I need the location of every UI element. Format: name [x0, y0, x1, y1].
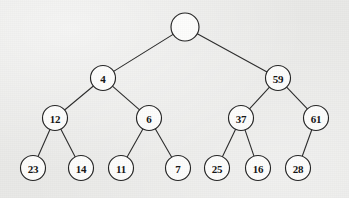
tree-edge-n4-to-n12	[65, 86, 94, 110]
tree-edge-n6-to-n7	[155, 129, 171, 157]
tree-edge-n59-to-n37	[249, 87, 269, 109]
tree-edge-n6-to-n11	[127, 129, 143, 157]
tree-edge-n12-to-n14	[61, 129, 75, 157]
tree-node-11[interactable]: 11	[109, 156, 134, 181]
tree-node-root-empty[interactable]	[171, 13, 199, 41]
node-circle	[171, 13, 199, 41]
tree-edge-n37-to-n16	[245, 130, 254, 156]
tree-edge-n12-to-n23	[38, 129, 50, 156]
tree-edge-n59-to-n61	[287, 87, 308, 109]
node-label: 11	[116, 163, 126, 175]
tree-edge-n37-to-n25	[222, 129, 235, 156]
tree-canvas: 45912637612314117251628	[0, 0, 349, 198]
tree-node-4[interactable]: 4	[91, 66, 116, 91]
tree-node-23[interactable]: 23	[21, 156, 46, 181]
node-layer: 45912637612314117251628	[21, 13, 329, 181]
tree-node-61[interactable]: 61	[304, 106, 329, 131]
tree-node-59[interactable]: 59	[266, 66, 291, 91]
tree-node-7[interactable]: 7	[166, 156, 191, 181]
tree-node-14[interactable]: 14	[69, 156, 94, 181]
node-label: 37	[236, 113, 247, 125]
tree-node-16[interactable]: 16	[246, 156, 271, 181]
binary-tree-diagram: 45912637612314117251628	[0, 0, 349, 198]
tree-node-37[interactable]: 37	[229, 106, 254, 131]
node-label: 61	[311, 113, 322, 125]
tree-edge-n4-to-n6	[112, 86, 139, 110]
node-label: 14	[76, 163, 87, 175]
tree-node-12[interactable]: 12	[43, 106, 68, 131]
node-label: 7	[175, 163, 181, 175]
tree-edge-root-to-n59	[197, 34, 267, 72]
tree-edge-root-to-n4	[114, 34, 174, 71]
node-label: 4	[100, 73, 106, 85]
node-label: 25	[212, 163, 223, 175]
node-label: 23	[28, 163, 39, 175]
tree-edge-n61-to-n28	[302, 130, 312, 156]
node-label: 6	[146, 113, 152, 125]
tree-node-6[interactable]: 6	[137, 106, 162, 131]
node-label: 16	[253, 163, 264, 175]
node-label: 59	[273, 73, 284, 85]
tree-node-25[interactable]: 25	[205, 156, 230, 181]
node-label: 28	[293, 163, 304, 175]
node-label: 12	[50, 113, 61, 125]
tree-node-28[interactable]: 28	[286, 156, 311, 181]
edge-layer	[38, 34, 312, 157]
